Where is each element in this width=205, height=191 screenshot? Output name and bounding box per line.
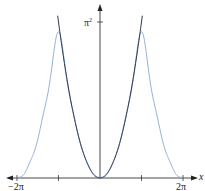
x-tick-label-neg-2pi: −2π bbox=[8, 182, 24, 191]
exponent-label: 2 bbox=[89, 17, 92, 23]
x-tick-label-2pi: 2π bbox=[176, 182, 186, 191]
x-axis-left-arrow-icon bbox=[6, 176, 13, 181]
x-axis-right-arrow-icon bbox=[191, 176, 198, 181]
x-axis-label: x bbox=[199, 172, 203, 182]
y-axis-up-arrow-icon bbox=[98, 4, 103, 11]
fourier-plot bbox=[0, 0, 205, 191]
axes bbox=[6, 4, 198, 181]
y-tick-label-pi-squared: π2 bbox=[84, 17, 92, 28]
